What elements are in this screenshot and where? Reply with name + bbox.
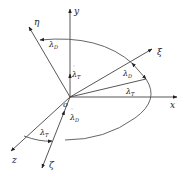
lambda-t-x-label: λT: [125, 87, 135, 97]
svg-text:λT: λT: [71, 70, 81, 80]
eta-label: η: [34, 17, 40, 27]
svg-text:λD: λD: [69, 113, 79, 123]
lambda-d-xi-label: λD: [122, 69, 132, 79]
arc-xi-seg: [132, 63, 146, 79]
svg-text:λD: λD: [122, 69, 132, 79]
y-label: y: [73, 6, 80, 16]
origin-label: o: [63, 100, 68, 109]
x-label: x: [170, 100, 175, 110]
lambda-t-z-label: λT: [39, 128, 49, 138]
z-label: z: [11, 155, 17, 165]
lambda-t-y-label: λT ·: [71, 62, 81, 80]
zeta-label: ζ: [49, 160, 55, 170]
xi-axis: [70, 49, 152, 97]
eta-axis: [29, 27, 70, 97]
svg-text:λD: λD: [48, 40, 58, 50]
svg-text:λT: λT: [125, 87, 135, 97]
rotation-frame-diagram: y x z ξ η ζ o λD λT · λD λT λT λD ·: [0, 0, 184, 176]
svg-text:λT: λT: [39, 128, 49, 138]
intermediate-ray: [70, 79, 146, 97]
svg-text:·: ·: [73, 62, 75, 69]
xi-label: ξ: [157, 47, 163, 57]
z-axis: [11, 97, 70, 151]
svg-text:·: ·: [71, 105, 73, 112]
lambda-d-top-label: λD: [48, 40, 58, 50]
lambda-d-zeta-label: λD ·: [69, 105, 79, 123]
